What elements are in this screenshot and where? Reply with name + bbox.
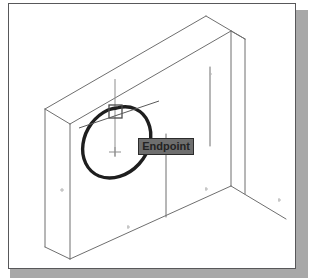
- slab-right-front-edge: [231, 31, 245, 39]
- slab-top-near-edge: [70, 31, 231, 124]
- endpoint-snap-tooltip: Endpoint: [138, 138, 194, 155]
- cad-drawing: [9, 4, 296, 269]
- wall-bottom-left-edge: [45, 247, 70, 259]
- slab-top-far-edge: [45, 16, 206, 109]
- screenshot-root: Endpoint: [0, 0, 310, 280]
- floor-line-right: [231, 186, 286, 219]
- tick-mark-right: [209, 72, 212, 76]
- drawing-canvas-frame: Endpoint: [8, 3, 296, 269]
- floor-line-left: [70, 186, 231, 259]
- tick-mark-far-right: [278, 198, 281, 202]
- slab-left-end-edge: [45, 109, 70, 124]
- endpoint-snap-tooltip-label: Endpoint: [142, 141, 190, 152]
- tick-mark-floor-right: [205, 187, 208, 191]
- tick-mark-center: [127, 225, 130, 229]
- tick-mark-left: [60, 188, 64, 192]
